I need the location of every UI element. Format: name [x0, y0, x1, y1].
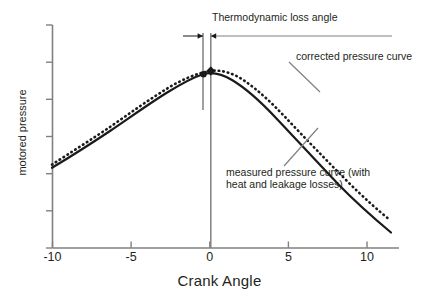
measured-pressure-curve [52, 73, 391, 232]
measured-peak-marker [200, 71, 206, 77]
corrected-pressure-curve [52, 71, 390, 220]
x-tick-label-five: 5 [285, 250, 292, 265]
thermodynamic-loss-angle-label: Thermodynamic loss angle [212, 11, 337, 23]
measured-label-line1: measured pressure curve (with [226, 166, 370, 178]
x-tick-label-minus5: -5 [126, 250, 137, 265]
y-axis-ticks [46, 25, 53, 248]
chart-figure: motored pressure Crank Angle -10 -5 0 5 … [0, 0, 439, 302]
measured-label-line2: heat and leakage losses) [226, 178, 370, 190]
corrected-curve-leader-line [289, 62, 320, 92]
x-axis-ticks [53, 242, 368, 249]
x-tick-label-zero: 0 [206, 250, 213, 265]
measured-pressure-curve-label: measured pressure curve (with heat and l… [226, 166, 370, 191]
corrected-pressure-curve-label: corrected pressure curve [296, 50, 412, 62]
x-axis-label: Crank Angle [0, 272, 439, 290]
y-axis-label: motored pressure [16, 72, 29, 192]
x-tick-label-ten: 10 [360, 250, 374, 265]
thermodynamic-loss-angle-dimension [183, 33, 392, 39]
x-tick-label-minus10: -10 [43, 250, 61, 265]
